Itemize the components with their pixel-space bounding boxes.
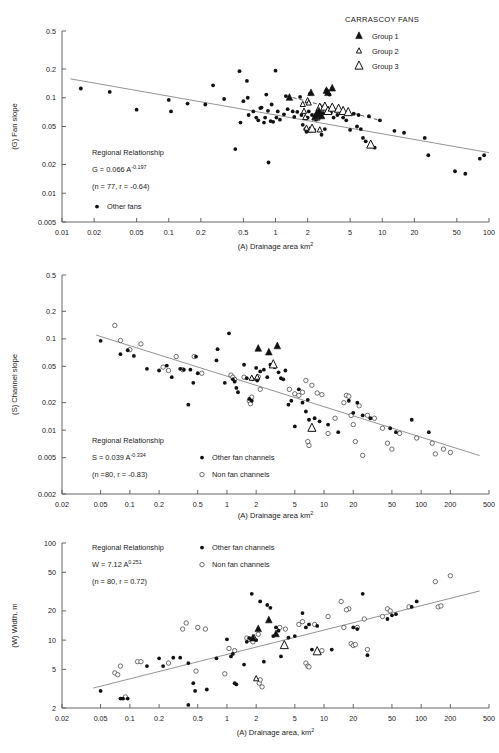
data-point-filled [268,606,272,610]
data-point-filled [216,347,220,351]
data-point-open [256,632,260,636]
data-point-filled [394,612,398,616]
data-point-open [351,422,355,426]
annotation-stats: (n = 80, r = 0.72) [92,577,147,586]
data-point-open [353,439,357,443]
data-point-open [113,323,117,327]
data-point-filled [355,627,359,631]
annotation-equation: W = 7.12 A0.251 [92,559,142,569]
data-point-filled [227,331,231,335]
data-point-open [339,599,343,603]
data-point-filled [265,375,269,379]
x-tick-label: 10 [320,500,328,509]
data-point-open [287,387,291,391]
data-point-filled [304,626,308,630]
x-tick-label: 0.5 [193,714,203,723]
data-point-filled [145,664,149,668]
data-point-filled [348,128,352,132]
data-point-filled [297,387,301,391]
data-point-open [441,447,445,451]
x-tick-label: 20 [349,714,357,723]
data-point-filled [203,103,207,107]
data-point-filled [361,414,365,418]
y-tick-label: 2 [52,704,56,713]
data-point-open [310,383,314,387]
data-point-filled [277,370,281,374]
chart-panel-channel-slope: 0.020.050.10.20.51251020501002005000.002… [0,258,499,520]
data-point-filled [281,377,285,381]
annotation-legend-label: Non fan channels [212,470,270,479]
data-point-filled [126,697,130,701]
data-point-filled [275,116,279,120]
carrascoy-legend: CARRASCOY FANSGroup 1Group 2Group 3 [345,15,419,71]
data-point-filled [426,153,430,157]
data-point-filled [266,109,270,113]
annotation-heading: Regional Relationship [92,436,164,445]
annotation-legend-label: Other fan channels [212,453,275,462]
data-point-open [307,665,311,669]
data-point-filled [386,617,390,621]
data-point-open [326,614,330,618]
data-point-open [200,562,204,566]
y-tick-label: 0.5 [46,27,56,36]
data-point-filled [196,371,200,375]
data-point-filled [364,139,368,143]
data-point-open [116,673,120,677]
data-point-open [362,617,366,621]
data-point-filled [291,109,295,113]
data-point-filled [99,689,103,693]
series-group-3 [280,640,321,654]
panel-1-svg: 0.010.020.050.10.20.51251020501000.0050.… [0,0,499,258]
data-point-filled [262,660,266,664]
data-point-filled [258,369,262,373]
x-tick-label: 5 [293,500,297,509]
data-point-open [196,625,200,629]
data-point-open [200,472,204,476]
data-point-open [430,441,434,445]
data-point-filled [286,107,290,111]
y-tick-label: 0.005 [38,218,56,227]
x-tick-label: 50 [388,714,396,723]
annotation-stats: (n =80, r = -0.83) [92,470,147,479]
data-point-filled [378,118,382,122]
x-tick-label: 0.02 [87,228,101,237]
data-point-open [365,647,369,651]
y-tick-label: 0.01 [42,426,56,435]
data-point-filled [355,401,359,405]
data-point-filled [298,95,302,99]
data-point-filled [313,416,317,420]
legend-entry-label: Group 3 [372,62,399,71]
data-point-open [380,426,384,430]
data-point-triangle-filled [329,84,336,91]
y-tick-label: 0.05 [42,122,56,131]
data-point-filled [423,136,427,140]
data-point-filled [293,634,297,638]
data-point-open [390,447,394,451]
data-point-open [433,452,437,456]
data-point-filled [394,430,398,434]
data-point-open [180,627,184,631]
data-point-filled [262,368,266,372]
data-point-filled [427,430,431,434]
data-point-filled [482,153,486,157]
data-point-filled [323,127,327,131]
x-tick-label: 200 [444,714,456,723]
data-point-filled [368,416,372,420]
data-point-triangle-open-small [356,48,361,53]
data-point-filled [357,113,361,117]
data-point-filled [415,600,419,604]
data-point-filled [200,456,204,460]
data-point-triangle-open-small [301,108,306,113]
annotation-block: Regional RelationshipW = 7.12 A0.251(n =… [92,543,275,586]
data-point-open [385,441,389,445]
data-point-filled [241,99,245,103]
data-point-filled [99,339,103,343]
data-point-open [200,371,204,375]
data-point-filled [239,121,243,125]
data-point-open [161,365,165,369]
x-tick-label: 5 [348,228,352,237]
data-point-open [297,393,301,397]
data-point-open [260,685,264,689]
annotation-equation: G = 0.066 A-0.197 [92,164,147,174]
data-point-filled [351,626,355,630]
